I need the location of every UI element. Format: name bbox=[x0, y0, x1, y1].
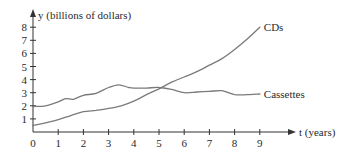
y-tick-label: 2 bbox=[22, 100, 28, 112]
x-tick-label: 2 bbox=[81, 137, 87, 149]
line-chart: 0123456789 12345678 CDsCassettes t (year… bbox=[0, 0, 348, 152]
y-tick-label: 7 bbox=[22, 34, 28, 46]
series-label-cds: CDs bbox=[264, 21, 284, 33]
series-label-cassettes: Cassettes bbox=[264, 88, 305, 100]
y-axis-arrowhead bbox=[30, 9, 36, 17]
x-tick-label: 6 bbox=[181, 137, 187, 149]
x-axis-arrowhead bbox=[288, 129, 296, 135]
series-group: CDsCassettes bbox=[33, 21, 305, 125]
x-tick-label: 3 bbox=[106, 137, 112, 149]
x-tick-label: 8 bbox=[232, 137, 238, 149]
series-line-cds bbox=[33, 27, 260, 125]
y-tick-label: 6 bbox=[22, 47, 28, 59]
y-tick-label: 3 bbox=[22, 87, 28, 99]
y-tick-label: 4 bbox=[22, 74, 28, 86]
y-ticks: 12345678 bbox=[22, 21, 37, 125]
x-tick-label: 0 bbox=[30, 137, 36, 149]
y-tick-label: 5 bbox=[22, 61, 28, 73]
y-axis-label: y (billions of dollars) bbox=[38, 9, 132, 22]
series-line-cassettes bbox=[33, 85, 260, 107]
y-tick-label: 8 bbox=[22, 21, 28, 33]
x-tick-label: 4 bbox=[131, 137, 137, 149]
x-tick-label: 9 bbox=[257, 137, 263, 149]
y-tick-label: 1 bbox=[22, 113, 28, 125]
x-axis-label: t (years) bbox=[299, 126, 336, 139]
x-tick-label: 1 bbox=[55, 137, 61, 149]
x-tick-label: 7 bbox=[207, 137, 213, 149]
x-tick-label: 5 bbox=[156, 137, 162, 149]
